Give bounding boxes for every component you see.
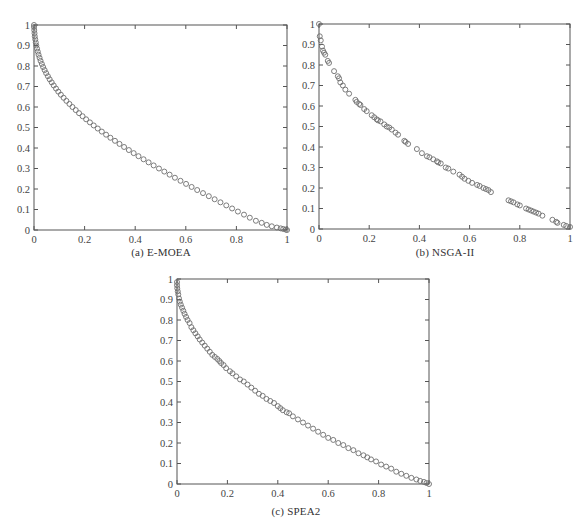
data-point-marker (389, 466, 394, 471)
data-point-marker (184, 314, 189, 319)
data-point-marker (404, 473, 409, 478)
data-point-marker (374, 459, 379, 464)
data-point-marker (295, 417, 300, 422)
y-tick-label: 0.1 (160, 458, 173, 469)
data-point-marker (336, 441, 341, 446)
data-point-marker (379, 462, 384, 467)
data-points (175, 280, 432, 487)
data-point-marker (409, 475, 414, 480)
data-point-marker (290, 414, 295, 419)
data-point-marker (399, 471, 404, 476)
scatter-plot-spea2: 00.10.20.30.40.50.60.70.80.9100.20.40.60… (0, 0, 587, 500)
data-point-marker (181, 308, 186, 313)
y-tick-label: 0.5 (160, 376, 173, 387)
y-tick-label: 0 (168, 479, 173, 490)
data-point-marker (384, 464, 389, 469)
y-tick-label: 1 (168, 274, 173, 285)
data-point-marker (182, 311, 187, 316)
data-point-marker (178, 302, 183, 307)
y-tick-label: 0.8 (160, 315, 173, 326)
data-point-marker (316, 429, 321, 434)
y-tick-label: 0.9 (160, 294, 173, 305)
y-tick-label: 0.4 (160, 397, 174, 408)
x-tick-label: 1 (426, 488, 431, 499)
data-point-marker (341, 443, 346, 448)
data-point-marker (326, 435, 331, 440)
x-tick-label: 0.8 (372, 488, 385, 499)
data-point-marker (321, 432, 326, 437)
x-tick-label: 0.4 (271, 488, 285, 499)
x-tick-label: 0.2 (221, 488, 234, 499)
x-tick-label: 0.6 (322, 488, 335, 499)
data-point-marker (311, 426, 316, 431)
data-point-marker (394, 469, 399, 474)
y-tick-label: 0.7 (160, 335, 173, 346)
data-point-marker (180, 305, 185, 310)
y-tick-label: 0.2 (160, 438, 173, 449)
y-tick-label: 0.6 (160, 356, 173, 367)
data-point-marker (306, 423, 311, 428)
caption-spea2: (c) SPEA2 (271, 505, 320, 517)
data-point-marker (346, 446, 351, 451)
data-point-marker (356, 451, 361, 456)
x-tick-label: 0 (174, 488, 179, 499)
panel-c-spea2: 00.10.20.30.40.50.60.70.80.9100.20.40.60… (0, 0, 587, 530)
data-point-marker (331, 437, 336, 442)
data-point-marker (301, 420, 306, 425)
data-point-marker (351, 448, 356, 453)
plot-frame (177, 279, 429, 484)
y-tick-label: 0.3 (160, 417, 173, 428)
